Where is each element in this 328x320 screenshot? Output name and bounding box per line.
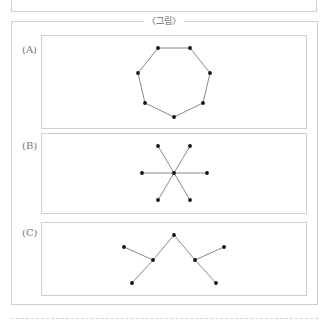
graph-edge [174,146,190,173]
graph-edge [195,247,224,260]
graph-edge [195,260,216,283]
graph-node [156,144,160,148]
graph-node [208,71,212,75]
graph-node [151,258,155,262]
graph-node [172,233,176,237]
graph-node [172,115,176,119]
graph-edge [145,103,174,117]
graph-edge [203,73,210,103]
graph-node [172,171,176,175]
graph-edge [174,103,203,117]
graph-node [205,171,209,175]
graph-edge [124,247,153,260]
graph-edge [138,48,158,73]
graph-node [122,245,126,249]
graph-node [222,245,226,249]
graph-a-heptagon [136,46,212,119]
graph-node [188,198,192,202]
graph-node [188,46,192,50]
graph-node [214,281,218,285]
graph-node [193,258,197,262]
graph-edge [158,146,174,173]
graph-edge [132,260,153,283]
graph-edge [174,173,190,200]
graph-c-tree [122,233,226,285]
graph-edge [174,235,195,260]
dashed-separator [11,318,318,319]
graph-edge [138,73,145,103]
graph-node [130,281,134,285]
graph-node [140,171,144,175]
graph-edge [153,235,174,260]
graph-node [156,46,160,50]
graph-node [156,198,160,202]
graph-drawings [0,0,328,320]
graph-b-star [140,144,209,202]
graph-node [201,101,205,105]
graph-edge [158,173,174,200]
graph-edge [190,48,210,73]
graph-node [136,71,140,75]
graph-node [143,101,147,105]
graph-node [188,144,192,148]
